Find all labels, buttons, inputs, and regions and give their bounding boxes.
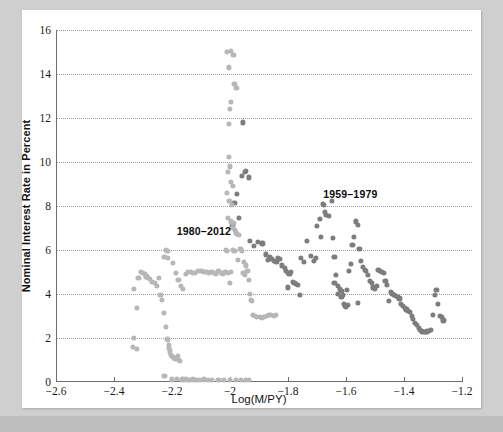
- x-tick-mark: [114, 377, 115, 382]
- data-point: [216, 378, 221, 383]
- y-tick-label: 10: [40, 156, 52, 168]
- data-point: [247, 378, 252, 383]
- x-tick-mark: [462, 377, 463, 382]
- x-axis-line: [56, 381, 462, 382]
- y-tick-label: 2: [45, 332, 51, 344]
- plot-area: 0246810121416 −2.6−2.4−2.2−2−1.8−1.6−1.4…: [56, 30, 462, 382]
- y-tick-label: 14: [40, 68, 52, 80]
- x-tick-label: −1.2: [452, 385, 473, 397]
- x-tick-label: −2.4: [104, 385, 125, 397]
- y-tick-label: 16: [40, 24, 52, 36]
- gridline: [56, 206, 472, 207]
- series-annotation: 1959–1979: [323, 188, 377, 200]
- x-tick-label: −2.2: [162, 385, 183, 397]
- y-tick-label: 4: [45, 288, 51, 300]
- y-axis-label: Nominal Interest Rate in Percent: [20, 120, 32, 293]
- gridline: [56, 338, 472, 339]
- gridline: [56, 30, 472, 31]
- gridline: [56, 162, 472, 163]
- page-bottom-band: [0, 416, 503, 432]
- data-point: [222, 378, 227, 383]
- gridline: [56, 118, 472, 119]
- gridline: [56, 74, 472, 75]
- y-tick-label: 6: [45, 244, 51, 256]
- x-tick-mark: [404, 377, 405, 382]
- y-tick-label: 8: [45, 200, 51, 212]
- x-tick-label: −1.6: [336, 385, 357, 397]
- series-annotation: 1980–2012: [177, 225, 231, 237]
- x-tick-label: −2.6: [46, 385, 67, 397]
- x-tick-mark: [288, 377, 289, 382]
- gridline: [56, 250, 472, 251]
- scatter-plot: Nominal Interest Rate in Percent Log(M/P…: [22, 10, 481, 408]
- y-axis-line: [56, 30, 57, 382]
- data-point: [227, 378, 232, 383]
- figure-card: Nominal Interest Rate in Percent Log(M/P…: [22, 10, 481, 408]
- gridline: [56, 294, 472, 295]
- x-tick-mark: [346, 377, 347, 382]
- x-tick-label: −1.4: [394, 385, 415, 397]
- gridlines: [56, 30, 462, 382]
- page-background: Nominal Interest Rate in Percent Log(M/P…: [0, 0, 503, 432]
- y-tick-label: 12: [40, 112, 52, 124]
- x-tick-label: −2: [224, 385, 236, 397]
- x-tick-label: −1.8: [278, 385, 299, 397]
